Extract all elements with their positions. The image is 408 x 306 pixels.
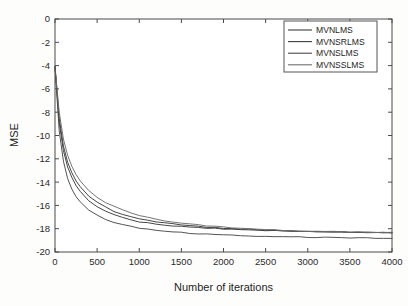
y-tick-label: -4 <box>42 60 50 71</box>
y-tick-label: -10 <box>36 130 50 141</box>
legend-label-mvnslms: MVNSLMS <box>316 48 359 58</box>
x-tick-label: 1000 <box>129 256 150 267</box>
x-tick-label: 1500 <box>171 256 192 267</box>
x-tick-label: 500 <box>89 256 105 267</box>
x-tick-label: 4000 <box>381 256 402 267</box>
y-tick-label: -20 <box>36 246 50 257</box>
legend-label-mvnsslms: MVNSSLMS <box>316 60 364 70</box>
x-tick-label: 0 <box>52 256 57 267</box>
legend-label-mvnlms: MVNLMS <box>316 25 353 35</box>
x-tick-label: 3500 <box>339 256 360 267</box>
x-axis-title: Number of iterations <box>174 281 274 293</box>
y-tick-label: -16 <box>36 200 50 211</box>
y-tick-label: -6 <box>42 83 50 94</box>
legend[interactable]: MVNLMSMVNSRLMSMVNSLMSMVNSSLMS <box>284 21 377 72</box>
y-tick-label: -14 <box>36 177 50 188</box>
x-tick-label: 2500 <box>255 256 276 267</box>
y-tick-label: -2 <box>42 37 50 48</box>
y-tick-label: 0 <box>45 13 50 24</box>
y-tick-label: -18 <box>36 223 50 234</box>
figure-canvas: 05001000150020002500300035004000 0-2-4-6… <box>0 0 408 306</box>
y-axis-title: MSE <box>8 123 20 147</box>
x-tick-label: 2000 <box>213 256 234 267</box>
mse-convergence-chart: 05001000150020002500300035004000 0-2-4-6… <box>0 0 408 306</box>
y-tick-label: -8 <box>42 107 50 118</box>
y-tick-label: -12 <box>36 153 50 164</box>
legend-label-mvnsrlms: MVNSRLMS <box>316 37 365 47</box>
x-tick-label: 3000 <box>297 256 318 267</box>
